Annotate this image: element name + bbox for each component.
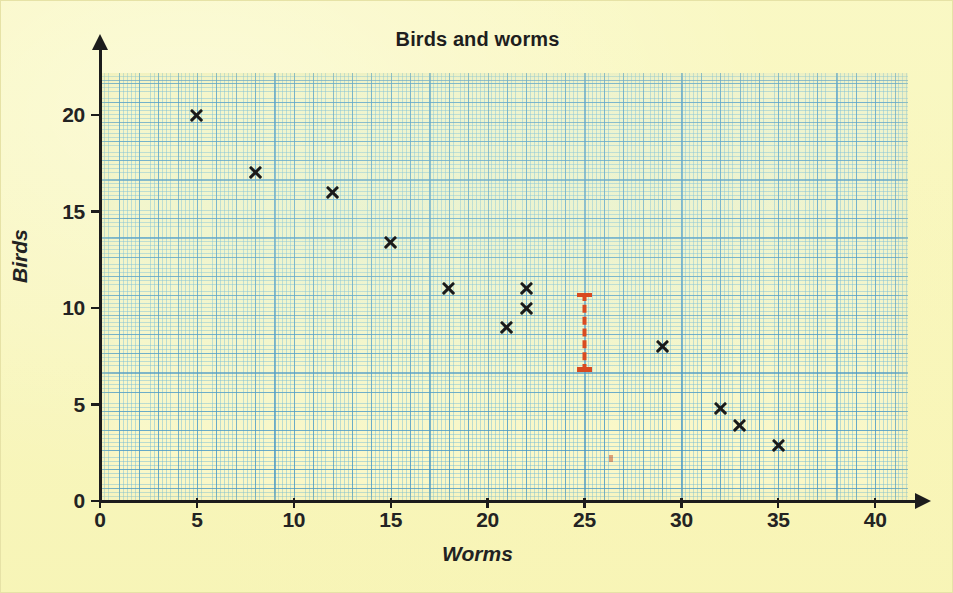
x-tick-label: 40 xyxy=(864,508,887,532)
y-axis-label: Birds xyxy=(8,229,32,283)
data-point-marker xyxy=(712,400,729,417)
x-axis-line xyxy=(100,500,920,503)
x-tick-label: 0 xyxy=(94,508,105,532)
y-tick-label: 5 xyxy=(74,393,85,417)
data-point-marker xyxy=(498,319,515,336)
red-interval-marker xyxy=(577,293,592,372)
x-axis-label: Worms xyxy=(1,542,953,566)
data-point-marker xyxy=(518,300,535,317)
data-point-marker xyxy=(440,280,457,297)
y-tick-label: 0 xyxy=(74,489,85,513)
y-tick-mark xyxy=(91,307,101,309)
data-point-marker xyxy=(770,437,787,454)
x-tick-mark xyxy=(293,498,295,508)
interval-cap-bottom xyxy=(577,367,592,372)
data-point-marker xyxy=(188,107,205,124)
x-tick-label: 30 xyxy=(670,508,693,532)
x-tick-mark xyxy=(874,498,876,508)
y-tick-label: 15 xyxy=(62,200,85,224)
x-tick-mark xyxy=(486,498,488,508)
chart-title: Birds and worms xyxy=(1,28,953,51)
x-tick-mark xyxy=(196,498,198,508)
x-tick-mark xyxy=(583,498,585,508)
interval-dashed-stem xyxy=(583,293,587,372)
x-tick-label: 15 xyxy=(379,508,402,532)
stray-red-mark xyxy=(609,455,613,462)
graph-paper-grid xyxy=(100,73,908,501)
y-tick-mark xyxy=(91,403,101,405)
x-tick-label: 20 xyxy=(476,508,499,532)
x-tick-mark xyxy=(680,498,682,508)
data-point-marker xyxy=(654,338,671,355)
x-tick-label: 25 xyxy=(573,508,596,532)
y-axis-arrow-icon xyxy=(92,34,108,50)
x-tick-label: 5 xyxy=(191,508,202,532)
y-tick-label: 10 xyxy=(62,296,85,320)
x-tick-mark xyxy=(777,498,779,508)
y-tick-mark xyxy=(91,114,101,116)
x-tick-label: 35 xyxy=(767,508,790,532)
x-tick-mark xyxy=(390,498,392,508)
y-tick-mark xyxy=(91,500,101,502)
data-point-marker xyxy=(247,164,264,181)
chart-page: Birds and worms 0510152025303540 0510152… xyxy=(0,0,953,593)
y-tick-mark xyxy=(91,210,101,212)
scatter-chart: Birds and worms 0510152025303540 0510152… xyxy=(1,1,953,593)
x-tick-label: 10 xyxy=(282,508,305,532)
x-axis-arrow-icon xyxy=(915,493,931,509)
data-point-marker xyxy=(382,234,399,251)
y-tick-label: 20 xyxy=(62,103,85,127)
data-point-marker xyxy=(324,184,341,201)
interval-cap-top xyxy=(577,293,592,298)
data-point-marker xyxy=(731,417,748,434)
data-point-marker xyxy=(518,280,535,297)
